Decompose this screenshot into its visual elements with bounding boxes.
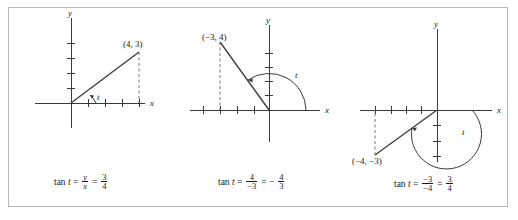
formula-variable: t — [68, 178, 71, 188]
formula-fraction-2: 3 4 — [101, 173, 107, 192]
formula-variable: t — [408, 180, 411, 190]
x-axis-label-text: x — [496, 105, 501, 115]
formula-equals-1: = — [237, 178, 242, 188]
formula-tangent: tan t = y x = 3 4 — [54, 173, 109, 192]
x-axis-label-text: x — [149, 98, 154, 108]
formula-lhs: tan — [394, 180, 406, 190]
formula-equals-1: = — [413, 180, 418, 190]
fraction-2-denominator: 4 — [101, 181, 107, 191]
y-axis-label-text: y — [433, 19, 438, 29]
terminal-ray — [71, 52, 139, 103]
angle-arrowhead — [412, 127, 417, 131]
panel-quadrant-three: x y t (−4, −3) tan t = −3 −4 = 3 4 — [350, 7, 508, 207]
point-label: (−3, 4) — [202, 33, 227, 42]
formula-fraction-1: 4 −3 — [246, 173, 257, 192]
fraction-2-denominator: 4 — [446, 183, 452, 193]
formula-equals-2: = — [92, 178, 97, 188]
y-axis-label-text: y — [265, 15, 270, 25]
fraction-1-numerator: 4 — [246, 173, 257, 182]
formula-equals-2: = — [261, 178, 266, 188]
formula-fraction-2: 3 4 — [446, 175, 452, 194]
terminal-ray — [375, 110, 437, 155]
angle-arc — [411, 110, 481, 169]
terminal-ray — [220, 42, 269, 110]
formula-sign: − — [269, 178, 274, 188]
formula-fraction-2: 4 3 — [278, 173, 284, 192]
point-label: (−4, −3) — [352, 157, 382, 166]
formula-tangent: tan t = −3 −4 = 3 4 — [394, 175, 454, 194]
panel-quadrant-two: x y t (−3, 4) tan t = 4 −3 = − 4 3 — [180, 7, 350, 207]
fraction-1-numerator: y — [82, 173, 88, 182]
angle-label-text: t — [462, 127, 465, 137]
fraction-1-denominator: −4 — [422, 183, 433, 193]
fraction-2-numerator: 4 — [278, 173, 284, 182]
x-axis-label-text: x — [324, 105, 329, 115]
formula-equals-1: = — [73, 178, 78, 188]
fraction-1-denominator: −3 — [246, 181, 257, 191]
formula-tangent: tan t = 4 −3 = − 4 3 — [218, 173, 286, 192]
fraction-1-denominator: x — [82, 181, 88, 191]
y-axis-label-text: y — [67, 8, 72, 18]
fraction-2-numerator: 3 — [101, 173, 107, 182]
figure-root: x y t (4, 3) tan t = y x = 3 4 — [0, 0, 518, 220]
formula-lhs: tan — [218, 178, 230, 188]
panel-quadrant-one: x y t (4, 3) tan t = y x = 3 4 — [8, 7, 180, 207]
point-label: (4, 3) — [123, 40, 143, 49]
angle-label-text: t — [97, 92, 100, 102]
angle-label-text: t — [295, 70, 298, 80]
fraction-2-numerator: 3 — [446, 175, 452, 184]
formula-fraction-1: y x — [82, 173, 88, 192]
fraction-1-numerator: −3 — [422, 175, 433, 184]
formula-fraction-1: −3 −4 — [422, 175, 433, 194]
formula-variable: t — [232, 178, 235, 188]
formula-lhs: tan — [54, 178, 66, 188]
formula-equals-2: = — [437, 180, 442, 190]
fraction-2-denominator: 3 — [278, 181, 284, 191]
